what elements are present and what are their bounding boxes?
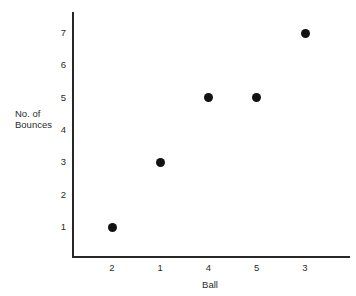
y-axis-tick-label: 5: [61, 93, 66, 103]
y-axis-tick-label: 1: [61, 222, 66, 232]
x-axis-tick-label: 1: [150, 263, 170, 273]
data-point: [108, 223, 117, 232]
y-axis-line: [72, 12, 74, 258]
y-axis-tick-label: 2: [61, 190, 66, 200]
x-axis-title-text: Ball: [202, 279, 218, 290]
x-axis-tick-label: 4: [199, 263, 219, 273]
x-axis-title: Ball: [0, 279, 356, 290]
y-axis-title-line-2: Bounces: [15, 119, 63, 130]
scatter-plot: 1234567 21453 No. of Bounces Ball: [0, 0, 356, 296]
y-axis-tick-label: 3: [61, 157, 66, 167]
x-axis-tick-label: 2: [102, 263, 122, 273]
data-point: [301, 29, 310, 38]
y-axis-tick-label: 7: [61, 28, 66, 38]
y-axis-title-line-1: No. of: [15, 108, 63, 119]
y-axis-tick-label: 6: [61, 60, 66, 70]
data-point: [156, 158, 165, 167]
x-axis-line: [72, 256, 350, 258]
y-axis-title: No. of Bounces: [15, 108, 63, 130]
data-point: [204, 93, 213, 102]
x-axis-tick-label: 5: [247, 263, 267, 273]
data-point: [252, 93, 261, 102]
x-axis-tick-label: 3: [295, 263, 315, 273]
